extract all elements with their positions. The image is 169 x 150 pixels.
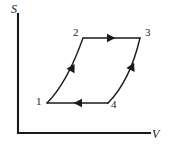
x-axis-label: V bbox=[152, 128, 159, 140]
arrowheads-group bbox=[67, 34, 139, 107]
state-point-label-3: 3 bbox=[145, 27, 151, 38]
arrow-4-to-1 bbox=[74, 99, 82, 107]
arrow-2-to-3 bbox=[107, 34, 115, 42]
segment-4-to-3 bbox=[108, 38, 140, 103]
state-point-label-1: 1 bbox=[36, 96, 42, 107]
state-point-label-4: 4 bbox=[111, 99, 117, 110]
segment-1-to-2 bbox=[47, 38, 83, 103]
cycle-path-group bbox=[47, 38, 140, 103]
cycle-diagram-svg bbox=[0, 0, 169, 150]
y-axis-label: S bbox=[11, 3, 17, 15]
thermodynamic-cycle-figure: S V 1 2 3 4 bbox=[0, 0, 169, 150]
state-point-label-2: 2 bbox=[73, 27, 79, 38]
axes-group bbox=[18, 14, 150, 133]
